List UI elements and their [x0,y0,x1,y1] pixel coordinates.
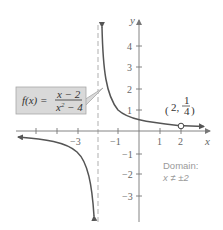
x-axis-label: x [204,135,210,147]
svg-text:(: ( [165,104,169,117]
y-tick-label: −1 [122,149,133,160]
hole-point [178,123,184,129]
point-label: ( 2, 1 4 ) [165,94,195,117]
formula-denominator: x2 − 4 [55,101,83,113]
formula-numerator: x − 2 [56,88,81,100]
y-axis-label: y [129,14,135,26]
x-tick-label: 2 [178,136,183,147]
right-branch-tail [184,126,204,127]
y-tick-label: 4 [127,41,132,52]
graph: −3 −1 1 2 4 3 2 1 −1 −2 −3 y x ( 2, 1 4 … [0,0,223,230]
x-tick-label: 1 [157,136,162,147]
point-label-den: 4 [184,105,190,117]
x-tick-label: −3 [70,136,81,147]
y-tick-label: −3 [122,191,133,202]
left-branch-curve [18,137,94,216]
x-tick-label: −1 [110,136,121,147]
y-tick-label: 1 [127,105,132,116]
point-label-x: 2, [171,101,180,113]
domain-title: Domain: [163,160,198,171]
y-tick-label: 2 [127,84,132,95]
y-tick-label: 3 [127,62,132,73]
svg-text:): ) [191,104,195,117]
function-label: f(x) = x − 2 x2 − 4 [16,87,103,114]
domain-text: x ≠ ±2 [162,172,189,183]
y-tick-label: −2 [122,169,133,180]
formula-lhs: f(x) = [22,94,47,107]
